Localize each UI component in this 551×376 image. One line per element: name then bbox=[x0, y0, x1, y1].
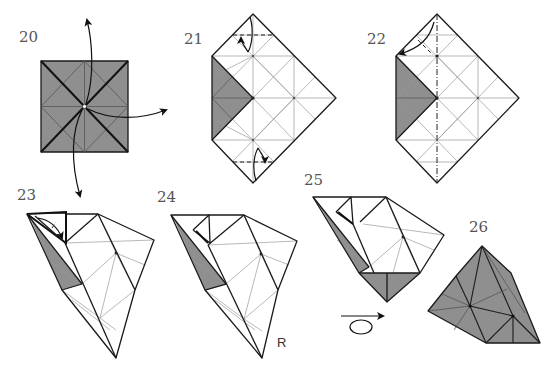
step-23-figure bbox=[27, 212, 154, 358]
step-21-figure bbox=[212, 14, 336, 183]
step-26-figure bbox=[428, 246, 540, 343]
step-22-figure bbox=[396, 14, 519, 183]
step-24-figure bbox=[171, 215, 297, 358]
diagram-drawings bbox=[0, 0, 551, 376]
origami-diagram: 20 21 22 23 24 25 26 R bbox=[0, 0, 551, 376]
turn-over-icon bbox=[341, 316, 383, 334]
step-20-figure bbox=[41, 20, 166, 196]
step-25-figure bbox=[313, 197, 444, 302]
